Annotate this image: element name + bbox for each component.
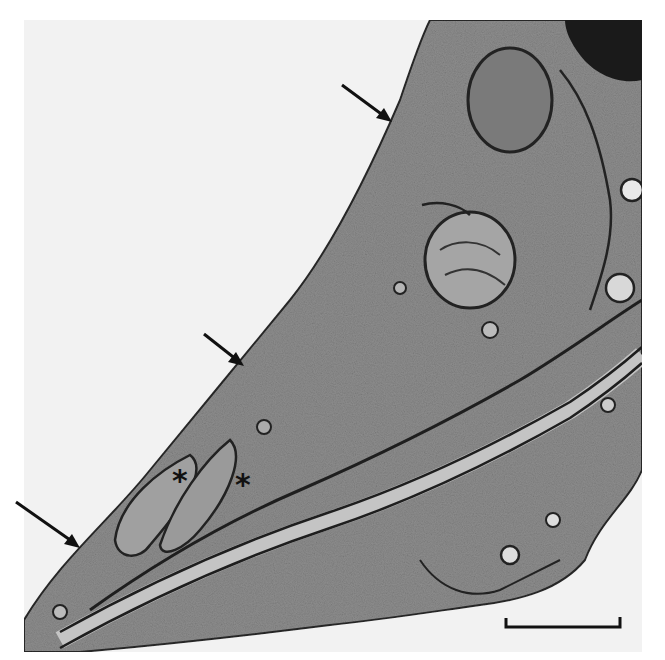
electron-micrograph: * *	[0, 0, 665, 660]
mitochondrion-upper	[468, 48, 552, 152]
asterisk-label: *	[235, 470, 251, 500]
mitochondrion-lower	[425, 212, 515, 308]
asterisk-label: *	[172, 466, 188, 496]
micrograph-frame	[24, 20, 643, 652]
